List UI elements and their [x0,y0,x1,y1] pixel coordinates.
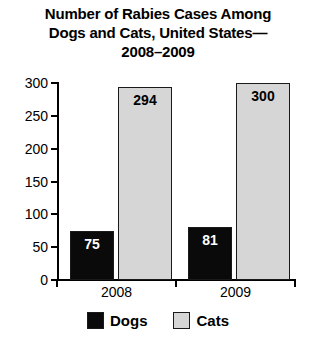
chart-title-line-3: 2008–2009 [0,42,316,61]
legend-label-cats: Cats [196,313,229,328]
bar-dogs-2008[interactable]: 75 [70,231,114,280]
bar-dogs-2009[interactable]: 81 [188,227,232,280]
chart-title: Number of Rabies Cases Among Dogs and Ca… [0,4,316,61]
legend-label-dogs: Dogs [110,313,148,328]
bar-value-label: 300 [237,89,289,103]
black-square-icon [87,312,104,329]
bar-cats-2008[interactable]: 294 [118,87,172,280]
x-axis-label-2009: 2009 [176,285,295,299]
y-tick-mark [51,213,57,215]
x-axis-label-2008: 2008 [57,285,176,299]
y-tick-label: 0 [40,273,48,287]
y-tick-label: 100 [25,207,48,221]
gray-square-icon [173,312,190,329]
chart-title-line-2: Dogs and Cats, United States— [0,23,316,42]
y-tick-label: 250 [25,109,48,123]
y-tick-label: 300 [25,76,48,90]
bar-value-label: 294 [119,93,171,107]
y-tick-label: 150 [25,175,48,189]
y-tick-label: 50 [32,240,48,254]
bar-cats-2009[interactable]: 300 [236,83,290,280]
y-tick-mark [51,246,57,248]
y-tick-mark [51,115,57,117]
rabies-cases-bar-chart: Number of Rabies Cases Among Dogs and Ca… [0,0,316,340]
y-tick-mark [51,181,57,183]
chart-legend: Dogs Cats [0,312,316,329]
y-tick-mark [51,148,57,150]
y-tick-label: 200 [25,142,48,156]
plot-area: 0 50 100 150 200 250 300 [57,83,295,280]
legend-item-dogs[interactable]: Dogs [87,312,148,329]
bar-value-label: 75 [71,237,113,251]
legend-item-cats[interactable]: Cats [173,312,229,329]
bar-value-label: 81 [189,233,231,247]
chart-title-line-1: Number of Rabies Cases Among [0,4,316,23]
y-tick-mark [51,82,57,84]
